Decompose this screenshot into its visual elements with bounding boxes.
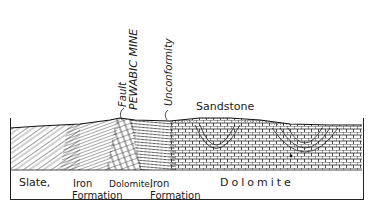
unit-label-slate: Slate, bbox=[19, 177, 50, 189]
cross-section-diagram: Fault PEWABIC MINE Unconformity Sandston… bbox=[0, 0, 373, 216]
sandstone-label: Sandstone bbox=[196, 101, 254, 113]
unit-label-dolomite-large: Dolomite bbox=[220, 177, 294, 189]
diagram-frame bbox=[10, 118, 364, 200]
unit-label-iron-formation-east-line2: Formation bbox=[150, 190, 200, 202]
unit-label-iron-formation-east: Iron bbox=[150, 178, 169, 190]
mine-label: PEWABIC MINE bbox=[127, 29, 140, 110]
unit-label-iron-formation-west-line2: Formation bbox=[72, 190, 122, 202]
unit-label-dolomite-small: Dolomite, bbox=[109, 178, 153, 190]
unit-label-iron-formation-west: Iron bbox=[73, 178, 92, 190]
unconformity-label: Unconformity bbox=[163, 38, 174, 106]
